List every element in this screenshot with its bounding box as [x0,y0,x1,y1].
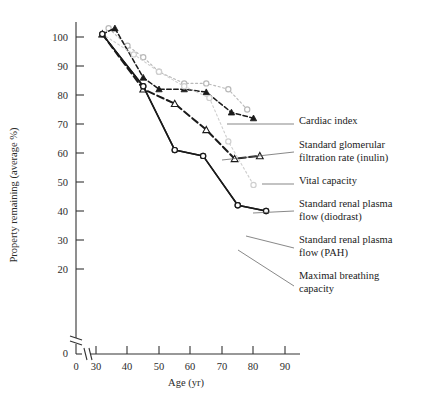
x-tick-label-40: 40 [122,361,133,372]
y-tick-label-90: 90 [58,61,69,72]
annotation-label-maximal-breathing-capacity: Maximal breathing [299,270,380,281]
data-point-marker [140,74,146,80]
data-point-marker [245,107,250,112]
series-line [102,28,253,118]
x-axis-ticks [96,346,285,354]
x-axis: 0 30 40 50 60 70 80 90 Age (yr) [73,346,300,389]
annotation-label-standard-glomerular-filtration-rate-inulin: Standard glomerular [299,139,386,150]
y-tick-label-0: 0 [63,348,68,359]
data-point-marker [235,203,240,208]
y-tick-label-60: 60 [58,148,69,159]
annotation-label-maximal-breathing-capacity: capacity [299,283,335,294]
leader-max-breathing [238,250,294,286]
chart-container: 100 90 80 70 60 50 40 30 20 0 Property r… [0,0,444,397]
y-tick-label-80: 80 [58,90,69,101]
y-tick-label-100: 100 [52,32,68,43]
x-axis-title: Age (yr) [168,377,204,389]
x-tick-label-30: 30 [91,361,102,372]
y-tick-label-50: 50 [58,177,69,188]
annotation-label-vital-capacity: Vital capacity [299,175,358,186]
y-axis-title: Property remaining (average %) [8,127,20,262]
series-standard-renal-plasma-flow-pah [100,31,269,213]
data-point-marker [182,84,187,89]
leader-rpf-diodrast [253,211,294,213]
data-point-marker [172,148,177,153]
series-standard-renal-plasma-flow-diodrast [100,31,256,187]
annotation-label-cardiac-index: Cardiac index [299,115,358,126]
y-tick-label-70: 70 [58,119,69,130]
annotation-label-standard-glomerular-filtration-rate-inulin: filtration rate (inulin) [299,152,389,164]
x-tick-label-60: 60 [185,361,196,372]
line-chart-svg: 100 90 80 70 60 50 40 30 20 0 Property r… [0,0,444,397]
annotation-labels: Cardiac indexStandard glomerularfiltrati… [299,115,393,294]
data-point-marker [226,87,231,92]
data-point-marker [226,139,231,144]
data-point-marker [201,153,206,158]
leader-rpf-pah [246,236,294,248]
y-axis-ticks [76,37,84,269]
data-point-marker [251,182,256,187]
y-tick-label-20: 20 [58,264,69,275]
x-axis-break-mark-1 [84,348,87,360]
x-tick-label-50: 50 [154,361,165,372]
y-axis: 100 90 80 70 60 50 40 30 20 0 Property r… [8,22,84,359]
x-tick-label-80: 80 [248,361,259,372]
data-point-marker [112,25,118,31]
data-point-marker [228,109,234,115]
series-vital-capacity [99,31,263,162]
data-series-layer [99,25,269,213]
data-point-marker [207,95,212,100]
series-line [102,34,266,211]
annotation-label-standard-renal-plasma-flow-pah: flow (PAH) [299,247,348,259]
data-point-marker [141,84,146,89]
series-line [102,34,266,211]
data-point-marker [131,52,136,57]
data-point-marker [204,81,209,86]
annotation-label-standard-renal-plasma-flow-diodrast: Standard renal plasma [299,198,393,209]
x-tick-label-0: 0 [73,361,78,372]
y-tick-label-40: 40 [58,206,69,217]
series-maximal-breathing-capacity [100,31,269,213]
data-point-marker [156,69,161,74]
data-point-marker [264,208,269,213]
series-line [102,34,253,185]
x-tick-label-90: 90 [280,361,291,372]
annotation-label-standard-renal-plasma-flow-diodrast: flow (diodrast) [299,211,362,223]
data-point-marker [100,31,105,36]
y-tick-label-30: 30 [58,235,69,246]
series-line [102,34,259,159]
annotation-label-standard-renal-plasma-flow-pah: Standard renal plasma [299,234,393,245]
x-tick-label-70: 70 [217,361,228,372]
